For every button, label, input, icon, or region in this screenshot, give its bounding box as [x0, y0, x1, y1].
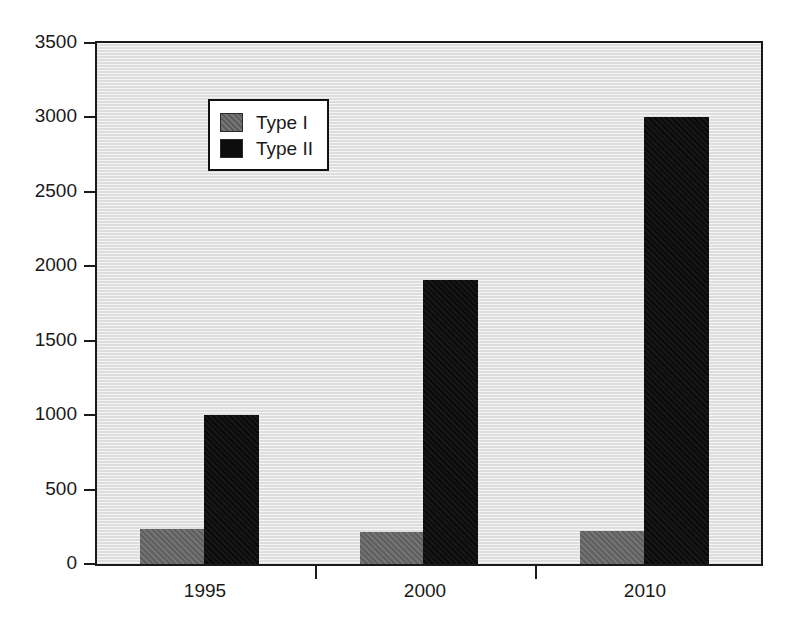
legend-swatch-type-1-icon: [220, 113, 243, 132]
bar-type-ii-1995: [204, 415, 259, 564]
y-axis-tick-label: 2500: [0, 180, 77, 202]
bar-type-ii-2010: [644, 117, 709, 564]
legend-label-type-1: Type I: [256, 113, 308, 132]
x-axis-tick-label: 2010: [595, 580, 695, 602]
y-axis-tick-mark: [84, 116, 95, 118]
x-axis-tick-mark: [315, 566, 317, 579]
y-axis-tick-label: 1500: [0, 329, 77, 351]
x-axis-tick-mark: [535, 566, 537, 579]
y-axis-tick-label: 3000: [0, 105, 77, 127]
y-axis-tick-mark: [84, 563, 95, 565]
y-axis-tick-mark: [84, 42, 95, 44]
legend-label-type-2: Type II: [256, 139, 313, 158]
y-axis-tick-mark: [84, 265, 95, 267]
bar-type-i-1995: [140, 529, 204, 564]
bar-type-i-2010: [580, 531, 644, 564]
y-axis-tick-mark: [84, 340, 95, 342]
bar-chart: 0500100015002000250030003500 Type I Type…: [0, 0, 805, 639]
legend-item-type-2: Type II: [220, 135, 313, 161]
plot-area: Type I Type II: [95, 41, 763, 566]
x-axis-tick-label: 1995: [155, 580, 255, 602]
bar-type-i-2000: [360, 532, 423, 564]
legend-item-type-1: Type I: [220, 109, 313, 135]
y-axis-tick-label: 0: [0, 552, 77, 574]
legend: Type I Type II: [208, 99, 329, 171]
y-axis-tick-mark: [84, 489, 95, 491]
y-axis-tick-label: 3500: [0, 31, 77, 53]
legend-swatch-type-2-icon: [220, 139, 243, 158]
x-axis-tick-label: 2000: [375, 580, 475, 602]
y-axis-tick-mark: [84, 191, 95, 193]
bar-type-ii-2000: [423, 280, 478, 564]
y-axis-tick-label: 2000: [0, 254, 77, 276]
y-axis-tick-label: 1000: [0, 403, 77, 425]
y-axis-tick-label: 500: [0, 478, 77, 500]
y-axis-tick-mark: [84, 414, 95, 416]
